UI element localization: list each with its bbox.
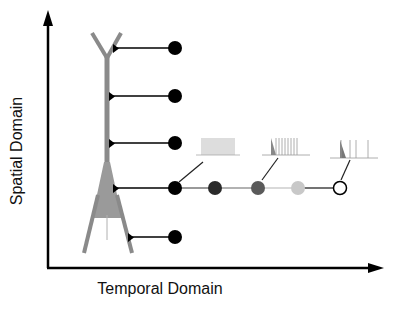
probe-4	[113, 184, 175, 193]
spike-trace-sparse	[330, 140, 378, 158]
axes	[43, 10, 384, 273]
probe-1	[113, 41, 182, 55]
time-point-4	[291, 181, 305, 195]
y-arrow-icon	[43, 10, 53, 26]
probe-5	[128, 230, 182, 244]
spike-trace-medium	[262, 138, 310, 155]
time-point-5	[334, 182, 347, 195]
spike-trace-dense	[196, 138, 240, 155]
y-axis-label: Spatial Domain	[8, 96, 26, 206]
time-point-3	[251, 181, 265, 195]
probe-3	[109, 136, 182, 150]
diagram-canvas	[0, 0, 396, 310]
temporal-sequence	[168, 181, 347, 195]
time-point-1	[168, 181, 182, 195]
probe-2	[109, 89, 182, 103]
time-point-2	[208, 181, 222, 195]
x-axis-label: Temporal Domain	[60, 280, 260, 298]
x-arrow-icon	[368, 263, 384, 273]
